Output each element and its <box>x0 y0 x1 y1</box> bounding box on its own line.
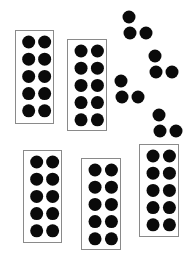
dot <box>89 232 102 245</box>
dot <box>163 150 176 163</box>
dot <box>115 75 128 88</box>
dot <box>91 113 104 126</box>
dot <box>46 207 59 220</box>
dot <box>89 164 102 177</box>
dot <box>163 218 176 231</box>
dot <box>38 53 51 66</box>
dot <box>105 181 118 194</box>
dot <box>153 109 166 122</box>
dot <box>46 224 59 237</box>
dot <box>116 91 129 104</box>
dot <box>147 167 160 180</box>
loose-dot-group <box>149 50 179 79</box>
dot <box>30 173 43 186</box>
loose-dot-group <box>123 11 153 40</box>
dot <box>150 66 163 79</box>
ten-frame <box>140 145 179 237</box>
counting-dots-figure <box>0 0 192 259</box>
dot <box>46 173 59 186</box>
dot <box>30 156 43 169</box>
dot <box>163 184 176 197</box>
dot <box>38 70 51 83</box>
dot <box>22 104 35 117</box>
dot <box>75 113 88 126</box>
dot <box>75 62 88 75</box>
loose-dot-group <box>115 75 145 104</box>
dot <box>91 45 104 58</box>
dot <box>38 36 51 49</box>
dot <box>38 87 51 100</box>
dot <box>147 150 160 163</box>
dot <box>105 215 118 228</box>
dot <box>140 27 153 40</box>
dot <box>170 125 183 138</box>
dot <box>75 45 88 58</box>
dot <box>22 70 35 83</box>
loose-dot-group <box>153 109 183 138</box>
dot <box>30 224 43 237</box>
dot <box>149 50 162 63</box>
dot <box>89 181 102 194</box>
dot <box>91 96 104 109</box>
dot <box>30 190 43 203</box>
dot <box>105 232 118 245</box>
dot <box>163 201 176 214</box>
dot <box>105 164 118 177</box>
dot <box>46 156 59 169</box>
ten-frame <box>82 159 121 250</box>
dot <box>75 96 88 109</box>
dot <box>46 190 59 203</box>
dot <box>22 36 35 49</box>
ten-frame <box>16 31 54 124</box>
dot <box>89 198 102 211</box>
ten-frame <box>68 40 107 131</box>
dot <box>163 167 176 180</box>
dot <box>147 201 160 214</box>
dot <box>75 79 88 92</box>
dot <box>38 104 51 117</box>
dot <box>147 218 160 231</box>
ten-frame <box>24 151 62 243</box>
dot <box>147 184 160 197</box>
dot <box>91 62 104 75</box>
dot <box>89 215 102 228</box>
dot <box>22 53 35 66</box>
dot <box>105 198 118 211</box>
dot <box>154 125 167 138</box>
dot <box>30 207 43 220</box>
dot <box>124 27 137 40</box>
dot <box>166 66 179 79</box>
dot <box>123 11 136 24</box>
dot <box>22 87 35 100</box>
dot <box>91 79 104 92</box>
dot <box>132 91 145 104</box>
